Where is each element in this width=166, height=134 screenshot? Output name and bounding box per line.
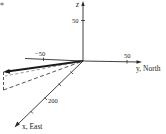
displacement-vector	[3, 61, 83, 90]
z-tick-label: 50	[72, 17, 79, 24]
x-tick-label: 200	[48, 97, 58, 104]
x-tick	[45, 98, 48, 101]
x-axis-label: x, East	[22, 122, 43, 131]
y-tick-label-pos: 50	[124, 52, 131, 59]
vector-arrowhead-icon	[3, 69, 10, 74]
z-axis-label: z	[75, 0, 79, 9]
z-axis-arrowhead-icon	[81, 1, 84, 6]
x-axis: 200 x, East	[15, 61, 84, 131]
coordinate-diagram: z 50 50 y, North −50 200 x, East	[0, 0, 166, 134]
projection-horizontal-dashed	[4, 61, 84, 90]
y-axis: 50 y, North	[83, 52, 161, 73]
y-axis-negative: −50	[25, 50, 83, 62]
vector-shadow-dashed	[5, 61, 83, 76]
y-tick-label-neg: −50	[35, 50, 45, 57]
z-axis: z 50	[72, 0, 85, 61]
y-axis-label: y, North	[136, 64, 161, 73]
corner-mark	[0, 3, 4, 6]
